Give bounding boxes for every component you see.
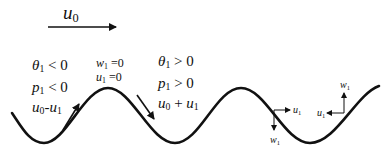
velocity-plus-label: u0 + u1 <box>158 96 199 112</box>
theta-negative-label: θ1 < 0 <box>32 58 68 74</box>
wave-diagram: u0 θ1 < 0 p1 < 0 u0-u1 w1 =0 u1 =0 θ1 > … <box>0 0 388 155</box>
u1-right-label: u1 <box>293 105 301 116</box>
w1-up-label: w1 <box>340 80 350 91</box>
velocity-minus-label: u0-u1 <box>32 100 62 116</box>
pressure-positive-label: p1 > 0 <box>158 76 194 92</box>
mean-flow-label: u0 <box>63 3 79 24</box>
theta-positive-label: θ1 > 0 <box>158 54 194 70</box>
upslope-arrow <box>63 104 79 130</box>
diagram-graphics <box>0 0 388 155</box>
u1-left-label: u1 <box>317 108 325 119</box>
pressure-negative-label: p1 < 0 <box>32 80 68 96</box>
w1-zero-label: w1 =0 <box>96 57 124 71</box>
w1-down-label: w1 <box>270 135 280 146</box>
u1-zero-label: u1 =0 <box>96 71 122 85</box>
